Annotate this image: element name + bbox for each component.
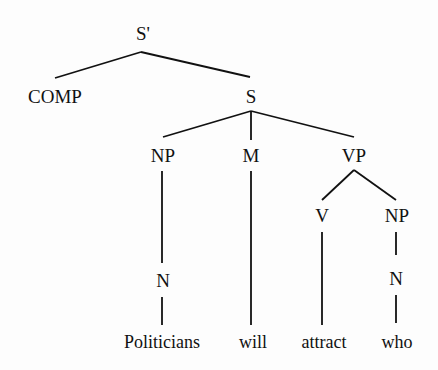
word-will: will (239, 332, 267, 352)
node-s: S (246, 87, 257, 107)
node-np-subject: NP (151, 146, 175, 166)
edge-vp-np (354, 170, 396, 200)
node-n-object: N (389, 269, 403, 289)
node-vp: VP (342, 146, 366, 166)
edge-vp-v (322, 170, 354, 200)
node-np-object: NP (385, 206, 409, 226)
node-v: V (315, 206, 329, 226)
tree-edges (0, 0, 438, 370)
edge-s-np (163, 111, 251, 137)
node-n-subject: N (156, 271, 170, 291)
word-who: who (382, 332, 413, 352)
edge-sbar-comp (55, 52, 141, 78)
edge-s-vp (251, 111, 354, 137)
node-sbar: S' (136, 24, 150, 44)
edge-sbar-s (141, 52, 250, 77)
word-attract: attract (302, 332, 347, 352)
node-m: M (243, 146, 260, 166)
node-comp: COMP (28, 87, 82, 107)
word-politicians: Politicians (124, 332, 200, 352)
